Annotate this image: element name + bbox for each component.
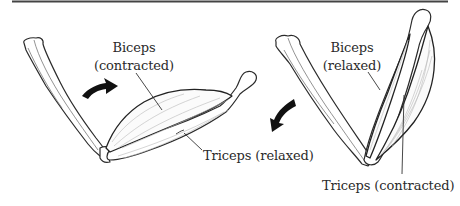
left-biceps-label-line2: (contracted) xyxy=(92,58,176,74)
right-biceps-label-line2: (relaxed) xyxy=(316,58,388,74)
right-biceps-label-line1: Biceps xyxy=(320,40,384,56)
extension-arrow-icon xyxy=(270,99,296,132)
left-arm xyxy=(24,38,257,163)
triceps-leader-line xyxy=(184,133,202,150)
left-biceps-label-line1: Biceps xyxy=(100,40,168,56)
left-triceps-label: Triceps (relaxed) xyxy=(203,148,314,164)
biceps-leader-line xyxy=(368,72,380,90)
right-triceps-label: Triceps (contracted) xyxy=(322,178,454,194)
left-forearm-bone xyxy=(24,38,106,156)
diagram-artwork xyxy=(0,0,460,206)
flexion-arrow-icon xyxy=(82,78,118,99)
arm-muscle-diagram: Biceps (contracted) Triceps (relaxed) Bi… xyxy=(0,0,460,206)
